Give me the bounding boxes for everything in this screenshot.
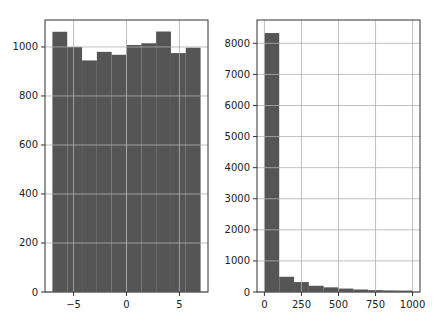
y-tick-label: 3000 xyxy=(225,193,250,204)
histogram-bar xyxy=(264,33,279,292)
x-tick-label: 1000 xyxy=(400,299,425,310)
histogram-bar xyxy=(141,43,156,292)
x-tick-label: 750 xyxy=(366,299,385,310)
histogram-bar xyxy=(52,32,67,292)
histogram-bar xyxy=(127,45,142,292)
y-tick-label: 800 xyxy=(19,90,38,101)
histogram-bar xyxy=(67,47,82,292)
x-tick-label: 5 xyxy=(176,299,182,310)
y-tick-label: 600 xyxy=(19,139,38,150)
y-tick-label: 6000 xyxy=(225,100,250,111)
x-tick-label: 0 xyxy=(123,299,129,310)
histogram-bar xyxy=(97,52,112,292)
histogram-uniform-axes: −50502004006008001000 xyxy=(13,20,208,310)
y-tick-label: 8000 xyxy=(225,38,250,49)
histogram-bar xyxy=(186,48,201,292)
y-tick-label: 5000 xyxy=(225,131,250,142)
histogram-bar xyxy=(309,286,324,292)
y-tick-label: 4000 xyxy=(225,162,250,173)
histogram-bar xyxy=(279,277,294,292)
histogram-bar xyxy=(339,289,354,292)
y-tick-label: 400 xyxy=(19,188,38,199)
y-tick-label: 7000 xyxy=(225,69,250,80)
x-tick-label: 250 xyxy=(292,299,311,310)
histogram-skewed-axes: 0250500750100001000200030004000500060007… xyxy=(225,20,426,310)
y-tick-label: 200 xyxy=(19,237,38,248)
y-tick-label: 1000 xyxy=(13,41,38,52)
x-tick-label: 0 xyxy=(261,299,267,310)
y-tick-label: 0 xyxy=(244,287,250,298)
y-tick-label: 1000 xyxy=(225,255,250,266)
x-tick-label: 500 xyxy=(329,299,348,310)
y-tick-label: 0 xyxy=(32,287,38,298)
histogram-bar xyxy=(324,287,339,292)
y-tick-label: 2000 xyxy=(225,224,250,235)
histogram-bar xyxy=(156,32,171,292)
histogram-bar xyxy=(112,55,127,292)
x-tick-label: −5 xyxy=(66,299,81,310)
histogram-bar xyxy=(82,60,97,292)
figure: −50502004006008001000 025050075010000100… xyxy=(0,0,440,326)
histogram-bar xyxy=(171,53,186,292)
